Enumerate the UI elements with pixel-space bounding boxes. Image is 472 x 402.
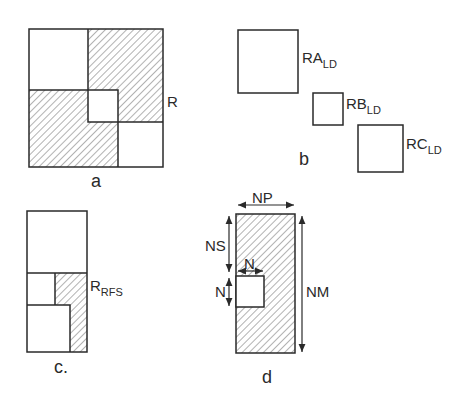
label-n-height: N <box>215 284 226 299</box>
panel-a-matrix <box>29 29 163 167</box>
panel-d-matrix <box>229 205 302 353</box>
caption-a: a <box>91 172 101 190</box>
caption-d: d <box>262 368 272 386</box>
caption-b: b <box>299 150 309 168</box>
label-ra-ld: RALD <box>302 50 337 70</box>
label-r-rfs: RRFS <box>90 278 123 298</box>
label-n-width: N <box>244 256 255 271</box>
label-ns: NS <box>205 238 226 253</box>
caption-c: c. <box>54 358 68 376</box>
label-rb-ld: RBLD <box>346 96 381 116</box>
label-nm: NM <box>306 284 329 299</box>
label-rc-ld: RCLD <box>406 136 442 156</box>
label-np: NP <box>252 190 273 205</box>
label-r: R <box>167 94 178 109</box>
diagram-canvas <box>0 0 472 402</box>
panel-c-matrix <box>27 211 87 352</box>
